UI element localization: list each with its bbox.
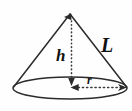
cone-diagram: h L r (0, 0, 132, 111)
cone-height-arrow-down (68, 78, 75, 86)
height-label: h (56, 47, 65, 64)
cone-right-slant-edge (70, 14, 127, 87)
slant-height-label: L (101, 35, 113, 55)
radius-label: r (87, 74, 92, 86)
